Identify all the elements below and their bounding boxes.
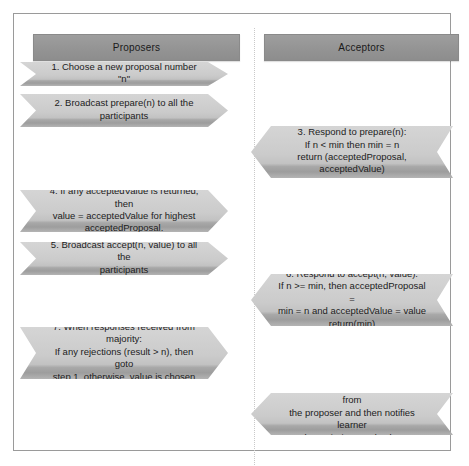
step-1-line-1: 1. Choose a new proposal number "n" bbox=[51, 61, 196, 84]
step-arrow-6: 6. Respond to accept(n, value):If n >= m… bbox=[251, 274, 453, 326]
step-8-line-2: the proposer and then notifies learner bbox=[289, 407, 415, 430]
diagram-frame: Proposers Acceptors 1. Choose a new prop… bbox=[13, 13, 451, 451]
step-arrow-8-label: 8. Each acceptor accepts value fromthe p… bbox=[277, 382, 427, 444]
step-7-line-1: 7. When responses received from bbox=[53, 321, 195, 332]
diagram-canvas: Proposers Acceptors 1. Choose a new prop… bbox=[0, 0, 469, 466]
step-arrow-5-label: 5. Broadcast accept(n, value) to all the… bbox=[46, 239, 202, 276]
step-6-line-1: 6. Respond to accept(n, value): bbox=[286, 268, 418, 279]
step-7-line-4: step 1, otherwise, value is chosen bbox=[53, 371, 196, 382]
step-2-line-1: 2. Broadcast prepare(n) to all the bbox=[55, 97, 194, 108]
step-6-line-3: min = n and acceptedValue = value bbox=[278, 305, 426, 316]
step-6-line-4: return(min) bbox=[329, 318, 375, 329]
step-5-line-1: 5. Broadcast accept(n, value) to all the bbox=[51, 239, 197, 262]
step-3-line-1: 3. Respond to prepare(n): bbox=[298, 126, 407, 137]
step-arrow-1: 1. Choose a new proposal number "n" bbox=[20, 62, 228, 86]
column-header-proposers: Proposers bbox=[33, 34, 240, 61]
step-3-line-4: acceptedValue) bbox=[319, 163, 384, 174]
step-4-line-3: acceptedProposal. bbox=[85, 222, 164, 233]
step-4-line-2: value = acceptedValue for highest bbox=[53, 210, 196, 221]
step-arrow-3-label: 3. Respond to prepare(n):If n < min then… bbox=[277, 126, 427, 176]
step-arrow-3: 3. Respond to prepare(n):If n < min then… bbox=[251, 126, 453, 178]
step-3-line-3: return (acceptedProposal, bbox=[297, 151, 406, 162]
step-8-line-3: the majority voted value bbox=[302, 432, 402, 443]
step-arrow-2: 2. Broadcast prepare(n) to all thepartic… bbox=[20, 94, 228, 127]
step-arrow-1-label: 1. Choose a new proposal number "n" bbox=[46, 61, 202, 86]
step-arrow-4-label: 4. If any acceptedValue is returned, the… bbox=[46, 185, 202, 235]
step-6-line-2: If n >= min, then acceptedProposal = bbox=[278, 280, 425, 303]
step-7-line-3: If any rejections (result > n), then got… bbox=[55, 346, 194, 369]
step-arrow-8: 8. Each acceptor accepts value fromthe p… bbox=[251, 393, 453, 435]
step-arrow-5: 5. Broadcast accept(n, value) to all the… bbox=[20, 242, 228, 275]
column-header-acceptors: Acceptors bbox=[264, 34, 459, 61]
step-arrow-2-label: 2. Broadcast prepare(n) to all thepartic… bbox=[46, 97, 202, 122]
step-7-line-2: majority: bbox=[106, 333, 142, 344]
column-divider bbox=[254, 28, 255, 465]
column-header-proposers-label: Proposers bbox=[113, 42, 160, 53]
step-arrow-6-label: 6. Respond to accept(n, value):If n >= m… bbox=[277, 268, 427, 330]
step-2-line-2: participants bbox=[100, 110, 149, 121]
step-5-line-2: participants bbox=[100, 264, 149, 275]
step-arrow-7-label: 7. When responses received frommajority:… bbox=[46, 321, 202, 383]
step-8-line-1: 8. Each acceptor accepts value from bbox=[286, 382, 418, 405]
step-3-line-2: If n < min then min = n bbox=[305, 139, 400, 150]
step-arrow-7: 7. When responses received frommajority:… bbox=[20, 327, 228, 379]
step-4-line-1: 4. If any acceptedValue is returned, the… bbox=[50, 185, 199, 208]
step-arrow-4: 4. If any acceptedValue is returned, the… bbox=[20, 190, 228, 232]
column-header-acceptors-label: Acceptors bbox=[338, 42, 384, 53]
